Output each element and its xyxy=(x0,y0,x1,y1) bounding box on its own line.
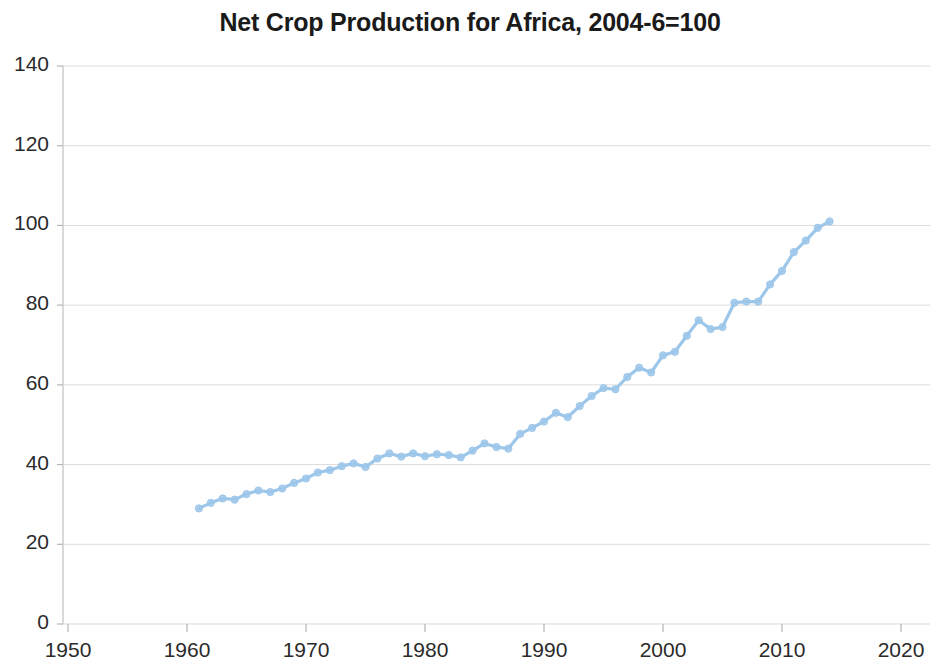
data-point-marker xyxy=(219,495,226,502)
gridlines-group xyxy=(57,66,930,624)
data-point-marker xyxy=(457,454,464,461)
data-point-marker xyxy=(326,467,333,474)
data-point-marker xyxy=(719,323,726,330)
data-point-marker xyxy=(540,418,547,425)
data-point-marker xyxy=(433,451,440,458)
data-point-marker xyxy=(243,490,250,497)
y-tick-label: 20 xyxy=(0,530,49,554)
data-series-group xyxy=(195,218,833,512)
data-point-marker xyxy=(659,352,666,359)
x-tick-label: 1950 xyxy=(23,638,113,662)
y-tick-label: 80 xyxy=(0,291,49,315)
data-point-marker xyxy=(767,281,774,288)
y-tick-label: 120 xyxy=(0,132,49,156)
data-point-marker xyxy=(338,463,345,470)
x-tick-label: 1980 xyxy=(380,638,470,662)
data-point-marker xyxy=(671,348,678,355)
data-point-marker xyxy=(755,298,762,305)
data-point-marker xyxy=(790,249,797,256)
data-point-marker xyxy=(207,499,214,506)
data-point-marker xyxy=(814,224,821,231)
data-point-marker xyxy=(231,496,238,503)
data-point-marker xyxy=(493,443,500,450)
data-point-marker xyxy=(707,325,714,332)
data-point-marker xyxy=(410,450,417,457)
data-point-marker xyxy=(683,332,690,339)
data-point-marker xyxy=(374,455,381,462)
data-point-marker xyxy=(302,475,309,482)
data-point-marker xyxy=(314,469,321,476)
data-point-marker xyxy=(517,430,524,437)
data-point-marker xyxy=(695,317,702,324)
data-point-marker xyxy=(624,373,631,380)
data-point-marker xyxy=(636,364,643,371)
data-point-marker xyxy=(778,267,785,274)
data-point-marker xyxy=(362,463,369,470)
data-point-marker xyxy=(600,384,607,391)
x-tick-label: 1990 xyxy=(499,638,589,662)
y-tick-label: 40 xyxy=(0,451,49,475)
x-tick-marks-group xyxy=(68,624,901,632)
data-point-marker xyxy=(552,409,559,416)
chart-container: Net Crop Production for Africa, 2004-6=1… xyxy=(0,0,940,666)
data-point-marker xyxy=(421,453,428,460)
data-point-marker xyxy=(481,440,488,447)
data-point-marker xyxy=(255,487,262,494)
data-point-marker xyxy=(588,392,595,399)
data-point-marker xyxy=(267,488,274,495)
plot-area xyxy=(0,0,940,666)
data-point-marker xyxy=(291,479,298,486)
data-point-marker xyxy=(386,450,393,457)
data-point-marker xyxy=(576,402,583,409)
x-tick-label: 1970 xyxy=(261,638,351,662)
data-point-marker xyxy=(529,424,536,431)
y-tick-label: 140 xyxy=(0,52,49,76)
data-point-marker xyxy=(445,451,452,458)
y-tick-label: 0 xyxy=(0,610,49,634)
x-tick-label: 2000 xyxy=(618,638,708,662)
data-point-marker xyxy=(350,460,357,467)
data-point-marker xyxy=(648,369,655,376)
data-point-marker xyxy=(612,386,619,393)
y-tick-label: 60 xyxy=(0,371,49,395)
x-tick-label: 2010 xyxy=(737,638,827,662)
data-point-marker xyxy=(469,447,476,454)
y-tick-label: 100 xyxy=(0,211,49,235)
data-point-marker xyxy=(731,299,738,306)
x-tick-label: 1960 xyxy=(142,638,232,662)
data-point-marker xyxy=(564,414,571,421)
data-point-marker xyxy=(398,453,405,460)
data-point-marker xyxy=(826,218,833,225)
data-point-marker xyxy=(802,237,809,244)
data-point-marker xyxy=(279,485,286,492)
data-point-marker xyxy=(743,298,750,305)
x-tick-label: 2020 xyxy=(856,638,940,662)
series-line xyxy=(199,221,830,508)
data-point-marker xyxy=(505,445,512,452)
data-point-marker xyxy=(195,505,202,512)
